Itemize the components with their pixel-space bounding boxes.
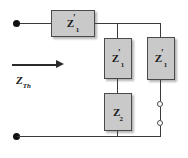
series-impedance-z1-prime-label: Z′1 (67, 13, 80, 34)
middle-branch-impedance-z2-block: Z2 (104, 93, 132, 131)
zth-arrow-head-icon (56, 60, 64, 68)
middle-branch-impedance-z1-prime-label: Z′1 (112, 48, 125, 69)
wire-between-output-terminals (160, 107, 161, 120)
circuit-diagram: Z′1 Z′1 Z2 Z′1 ZTh (0, 0, 188, 158)
wire-bottom-rail (17, 136, 161, 137)
output-terminal-upper-circle (157, 101, 163, 107)
zth-arrow-line (12, 64, 58, 66)
right-branch-impedance-z1-prime-block: Z′1 (147, 37, 175, 80)
wire-top-rail-to-middle-z1 (117, 23, 118, 38)
series-impedance-z1-prime-block: Z′1 (51, 10, 95, 37)
zth-label: ZTh (16, 70, 31, 90)
input-terminal-top-dot (13, 20, 20, 27)
right-branch-impedance-z1-prime-label: Z′1 (155, 48, 168, 69)
wire-right-z1-to-output-terminal-upper (160, 80, 161, 101)
output-terminal-lower-circle (157, 120, 163, 126)
middle-branch-impedance-z1-prime-block: Z′1 (104, 38, 132, 79)
wire-top-rail (95, 23, 161, 24)
wire-top-rail-to-right-z1 (160, 23, 161, 37)
middle-branch-impedance-z2-label: Z2 (113, 102, 123, 123)
wire-input-top-to-series-z1 (17, 23, 51, 24)
wire-middle-z1-to-z2 (117, 79, 118, 93)
zth-annotation-group: ZTh (12, 58, 68, 88)
